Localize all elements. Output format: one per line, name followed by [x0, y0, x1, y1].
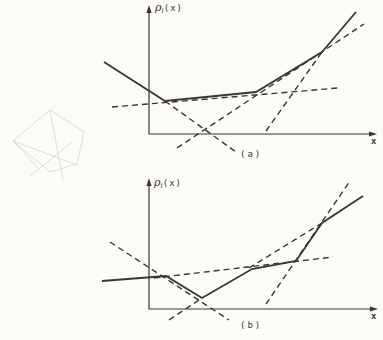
series-piecewise-linear-function	[102, 196, 363, 298]
plot-b-caption: (b)	[240, 321, 262, 330]
rho-argument: (x)	[163, 178, 182, 188]
series-affine-descending-extension	[110, 242, 229, 320]
plot-b-canvas	[0, 0, 383, 340]
axis-lines	[149, 182, 374, 309]
series-affine-final-extension	[249, 223, 322, 268]
plot-b-y-axis-label: ρi(x)	[154, 177, 182, 190]
rho-argument: (x)	[164, 3, 183, 13]
plot-a-y-axis-label: ρi(x)	[155, 2, 183, 15]
plot-b-x-axis-label: x	[371, 312, 376, 321]
plot-a-caption: (a)	[240, 150, 262, 159]
y-axis-arrowhead	[146, 178, 151, 186]
scanned-figure-page: ρi(x) x (a) ρi(x) x (b)	[0, 0, 383, 340]
plot-a-x-axis-label: x	[371, 137, 376, 146]
